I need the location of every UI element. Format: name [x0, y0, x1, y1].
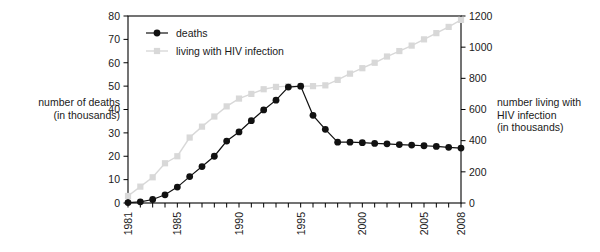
data-point — [137, 198, 144, 205]
y-tick-label-right: 1000 — [469, 41, 493, 53]
legend-marker-hiv — [154, 48, 160, 54]
data-point — [137, 184, 143, 190]
y-tick-label-left: 70 — [108, 33, 120, 45]
x-tick-label: 1985 — [171, 212, 183, 236]
y-tick-label-right: 0 — [469, 197, 475, 209]
data-point — [260, 107, 267, 114]
y-tick-label-right: 600 — [469, 103, 487, 115]
data-point — [433, 143, 440, 150]
data-point — [384, 140, 391, 147]
plot-area: 1981198519901995200020052008 01020304050… — [0, 0, 600, 252]
y-tick-label-right: 800 — [469, 72, 487, 84]
data-point — [347, 139, 354, 146]
data-point — [371, 140, 378, 147]
data-point — [458, 145, 465, 152]
y-tick-label-left: 60 — [108, 57, 120, 69]
data-point — [125, 199, 132, 206]
data-point — [421, 142, 428, 149]
data-point — [187, 134, 193, 140]
y-tick-label-left: 10 — [108, 173, 120, 185]
x-tick-label: 1981 — [122, 212, 134, 236]
x-tick-label: 2000 — [356, 212, 368, 236]
chart-svg: 1981198519901995200020052008 01020304050… — [0, 0, 600, 252]
x-tick-label: 1995 — [295, 212, 307, 236]
y-axis-right-tick-labels: 020040060080010001200 — [469, 10, 493, 209]
data-point — [285, 84, 292, 91]
y-tick-label-left: 0 — [114, 197, 120, 209]
data-point — [433, 30, 439, 36]
y-tick-label-right: 200 — [469, 166, 487, 178]
x-tick-label: 2005 — [418, 212, 430, 236]
data-point — [322, 82, 328, 88]
data-point — [322, 126, 329, 133]
data-point — [396, 141, 403, 148]
data-point — [273, 97, 280, 104]
data-point — [150, 174, 156, 180]
data-point — [248, 117, 255, 124]
data-point — [125, 193, 131, 199]
data-point — [458, 17, 464, 23]
x-tick-label: 2008 — [455, 212, 467, 236]
y-tick-label-right: 1200 — [469, 10, 493, 22]
data-point — [174, 184, 181, 191]
data-point — [224, 103, 230, 109]
y-axis-left-ticks — [124, 16, 129, 203]
data-point — [273, 84, 279, 90]
series-deaths — [125, 83, 465, 206]
y-tick-label-left: 50 — [108, 80, 120, 92]
y-axis-right-ticks — [461, 16, 466, 203]
data-point — [211, 153, 218, 160]
y-axis-left-tick-labels: 01020304050607080 — [108, 10, 120, 209]
data-point — [396, 48, 402, 54]
data-point — [236, 129, 243, 136]
y-tick-label-left: 30 — [108, 127, 120, 139]
y-tick-label-right: 400 — [469, 134, 487, 146]
data-point — [162, 191, 169, 198]
data-point — [409, 43, 415, 49]
data-point — [236, 95, 242, 101]
data-point — [211, 113, 217, 119]
data-point — [335, 77, 341, 83]
data-point — [310, 83, 316, 89]
data-point — [162, 160, 168, 166]
data-point — [446, 24, 452, 30]
data-point — [199, 124, 205, 130]
data-point — [445, 144, 452, 151]
legend-label-deaths: deaths — [176, 27, 208, 39]
data-point — [223, 138, 230, 145]
legend-marker-deaths — [154, 30, 161, 37]
y-tick-label-left: 80 — [108, 10, 120, 22]
data-point — [334, 139, 341, 146]
data-point — [248, 91, 254, 97]
data-point — [408, 142, 415, 149]
chart-legend: deathsliving with HIV infection — [146, 27, 284, 57]
data-point — [384, 53, 390, 59]
data-point — [186, 173, 193, 180]
data-point — [421, 36, 427, 42]
data-point — [149, 196, 156, 203]
data-point — [199, 163, 206, 170]
y-tick-label-left: 20 — [108, 150, 120, 162]
data-point — [297, 83, 304, 90]
data-point — [372, 60, 378, 66]
data-point — [347, 71, 353, 77]
legend-label-hiv: living with HIV infection — [176, 45, 284, 57]
y-tick-label-left: 40 — [108, 103, 120, 115]
x-tick-label: 1990 — [233, 212, 245, 236]
data-point — [359, 139, 366, 146]
data-point — [310, 112, 317, 119]
x-axis-tick-labels: 1981198519901995200020052008 — [122, 212, 467, 236]
data-point — [261, 86, 267, 92]
data-point — [174, 153, 180, 159]
x-axis-ticks — [128, 203, 461, 208]
data-point — [359, 65, 365, 71]
chart-root: number of deaths (in thousands) number l… — [0, 0, 600, 252]
